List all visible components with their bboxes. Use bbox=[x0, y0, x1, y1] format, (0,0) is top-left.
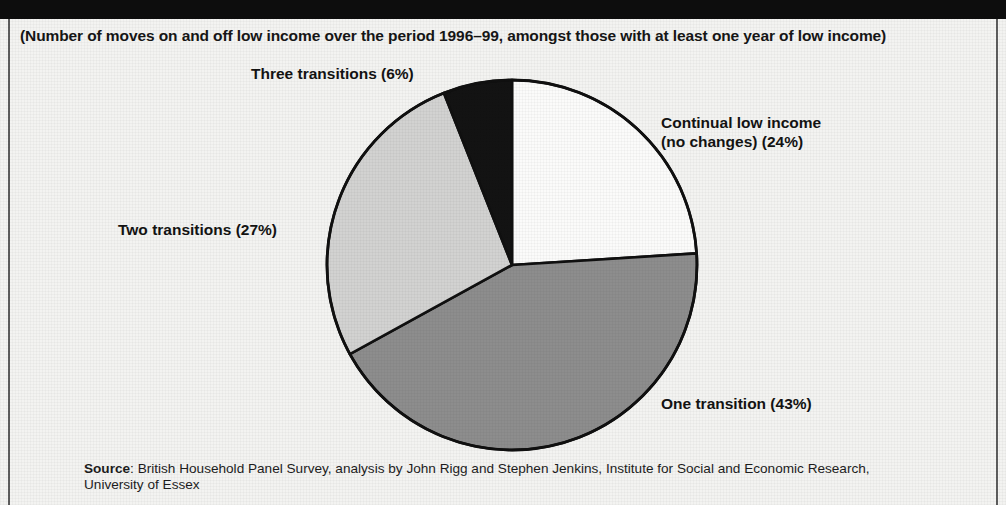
pie-label-continual-low-income: Continual low income (no changes) (24%) bbox=[661, 113, 821, 151]
frame-rule-right bbox=[996, 19, 998, 505]
chart-figure: (Number of moves on and off low income o… bbox=[0, 0, 1006, 505]
pie-label-continual-line1: Continual low income bbox=[661, 113, 821, 132]
source-note: Source: British Household Panel Survey, … bbox=[84, 461, 929, 493]
pie-label-two-transitions: Two transitions (27%) bbox=[118, 220, 277, 239]
top-banner-bar bbox=[0, 0, 1006, 19]
pie-chart-svg bbox=[325, 78, 699, 452]
pie-chart bbox=[325, 78, 699, 452]
figure-subtitle: (Number of moves on and off low income o… bbox=[20, 27, 1000, 45]
source-text: : British Household Panel Survey, analys… bbox=[84, 461, 870, 492]
pie-label-continual-line2: (no changes) (24%) bbox=[661, 132, 821, 151]
pie-slice-continual-low-income bbox=[512, 80, 697, 265]
pie-label-three-transitions: Three transitions (6%) bbox=[251, 64, 414, 83]
frame-rule-left bbox=[8, 19, 10, 505]
pie-label-one-transition: One transition (43%) bbox=[661, 394, 812, 413]
source-label: Source bbox=[84, 461, 130, 476]
